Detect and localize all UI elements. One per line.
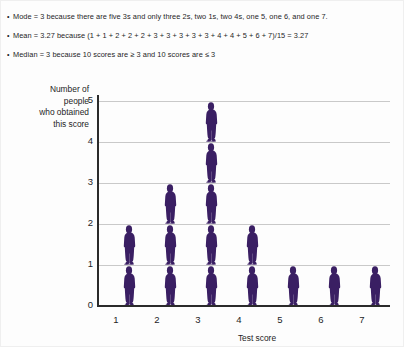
gridline-3 [98,183,390,184]
y-tick-1: 1 [71,259,93,269]
column-score-3 [198,101,224,306]
y-tick-2: 2 [71,218,93,228]
plot-area [98,101,390,306]
person-figure-icon [116,224,142,265]
x-tick-6: 6 [309,314,333,325]
column-score-4 [239,224,265,306]
person-figure-icon [321,265,347,306]
note-line-median: • Median = 3 because 10 scores are ≥ 3 a… [7,50,399,59]
x-tick-4: 4 [227,314,251,325]
column-score-2 [157,183,183,306]
person-figure-icon [157,265,183,306]
note-text-mean: Mean = 3.27 because (1 + 1 + 2 + 2 + 2 +… [13,31,399,40]
y-axis-ticks: 0 1 2 3 4 5 [63,83,93,313]
gridline-5 [98,101,390,102]
y-tick-4: 4 [71,136,93,146]
gridline-4 [98,142,390,143]
person-figure-icon [198,183,224,224]
x-axis-label: Test score [197,333,317,343]
person-figure-icon [116,265,142,306]
pictograph-chart: Number of people who obtained this score… [1,83,404,347]
person-figure-icon [198,101,224,142]
statistics-notes: • Mode = 3 because there are five 3s and… [7,12,399,69]
y-axis-line [97,95,99,307]
x-tick-7: 7 [350,314,374,325]
person-figure-icon [239,265,265,306]
note-text-mode: Mode = 3 because there are five 3s and o… [13,12,399,21]
x-tick-1: 1 [104,314,128,325]
x-tick-2: 2 [145,314,169,325]
y-tick-5: 5 [71,95,93,105]
note-line-mean: • Mean = 3.27 because (1 + 1 + 2 + 2 + 2… [7,31,399,40]
figure-page: • Mode = 3 because there are five 3s and… [0,0,404,347]
person-figure-icon [157,224,183,265]
column-score-5 [280,265,306,306]
column-score-7 [362,265,388,306]
person-figure-icon [239,224,265,265]
person-figure-icon [198,142,224,183]
x-tick-3: 3 [186,314,210,325]
y-tick-3: 3 [71,177,93,187]
person-figure-icon [280,265,306,306]
y-tick-0: 0 [71,300,93,310]
column-score-6 [321,265,347,306]
x-tick-5: 5 [268,314,292,325]
person-figure-icon [362,265,388,306]
person-figure-icon [157,183,183,224]
person-figure-icon [198,224,224,265]
x-axis-line [97,305,390,307]
person-figure-icon [198,265,224,306]
note-line-mode: • Mode = 3 because there are five 3s and… [7,12,399,21]
column-score-1 [116,224,142,306]
note-text-median: Median = 3 because 10 scores are ≥ 3 and… [13,50,399,59]
